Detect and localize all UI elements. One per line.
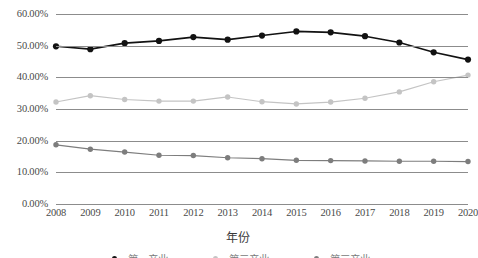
gridline bbox=[56, 14, 468, 15]
gridline bbox=[56, 77, 468, 78]
legend-label: 第三产业 bbox=[330, 251, 370, 258]
gridline bbox=[56, 46, 468, 47]
y-axis-tick-label: 30.00% bbox=[17, 104, 48, 115]
data-point bbox=[362, 33, 368, 39]
data-point bbox=[156, 38, 162, 44]
data-point bbox=[122, 97, 127, 102]
x-axis-title: 年份 bbox=[0, 228, 476, 246]
data-point bbox=[88, 147, 93, 152]
data-point bbox=[328, 29, 334, 35]
chart-legend: 第一产业第二产业第三产业 bbox=[0, 251, 476, 258]
x-axis-tick-label: 2016 bbox=[321, 207, 341, 219]
y-axis-tick-label: 10.00% bbox=[17, 167, 48, 178]
data-point bbox=[431, 159, 436, 164]
data-point bbox=[328, 158, 333, 163]
x-axis-tick-label: 2012 bbox=[183, 207, 203, 219]
data-point bbox=[397, 159, 402, 164]
data-point bbox=[293, 28, 299, 34]
data-point bbox=[53, 142, 58, 147]
y-axis-tick-label: 50.00% bbox=[17, 40, 48, 51]
legend-items: 第一产业第二产业第三产业 bbox=[0, 251, 476, 258]
x-axis-tick-label: 2010 bbox=[115, 207, 135, 219]
data-point bbox=[431, 79, 436, 84]
x-axis-tick-label: 2015 bbox=[286, 207, 306, 219]
y-axis-labels: 0.00%10.00%20.00%30.00%40.00%50.00%60.00… bbox=[0, 0, 56, 204]
y-axis-tick-label: 20.00% bbox=[17, 135, 48, 146]
data-point bbox=[225, 37, 231, 43]
y-axis-tick-label: 60.00% bbox=[17, 9, 48, 20]
data-point bbox=[88, 93, 93, 98]
legend-label: 第一产业 bbox=[128, 251, 168, 258]
data-point bbox=[328, 99, 333, 104]
gridline bbox=[56, 109, 468, 110]
data-point bbox=[396, 39, 402, 45]
legend-item[interactable]: 第三产业 bbox=[309, 251, 370, 258]
data-point bbox=[397, 89, 402, 94]
x-axis-tick-label: 2011 bbox=[149, 207, 169, 219]
x-axis-tick-label: 2019 bbox=[424, 207, 444, 219]
plot-area bbox=[56, 14, 468, 204]
data-point bbox=[294, 101, 299, 106]
data-point bbox=[431, 49, 437, 55]
x-axis-labels: 2008200920102011201220132014201520162017… bbox=[56, 207, 468, 223]
data-point bbox=[191, 98, 196, 103]
data-point bbox=[156, 153, 161, 158]
data-point bbox=[190, 34, 196, 40]
data-point bbox=[122, 149, 127, 154]
data-point bbox=[191, 153, 196, 158]
data-point bbox=[225, 94, 230, 99]
data-point bbox=[465, 159, 470, 164]
data-point bbox=[294, 158, 299, 163]
data-point bbox=[465, 57, 471, 63]
x-axis-tick-label: 2017 bbox=[355, 207, 375, 219]
x-axis-tick-label: 2013 bbox=[218, 207, 238, 219]
legend-item[interactable]: 第二产业 bbox=[208, 251, 269, 258]
x-axis-tick-label: 2020 bbox=[458, 207, 478, 219]
data-point bbox=[87, 46, 93, 52]
data-point bbox=[225, 155, 230, 160]
series-3 bbox=[53, 142, 470, 164]
y-axis-tick-label: 0.00% bbox=[22, 199, 48, 210]
data-point bbox=[362, 158, 367, 163]
data-point bbox=[259, 99, 264, 104]
x-axis-tick-label: 2009 bbox=[80, 207, 100, 219]
data-point bbox=[259, 32, 265, 38]
legend-item[interactable]: 第一产业 bbox=[107, 251, 168, 258]
x-axis-tick-label: 2014 bbox=[252, 207, 272, 219]
data-point bbox=[259, 156, 264, 161]
x-axis-tick-label: 2018 bbox=[389, 207, 409, 219]
data-point bbox=[156, 98, 161, 103]
x-axis-tick-label: 2008 bbox=[46, 207, 66, 219]
gridline bbox=[56, 141, 468, 142]
data-point bbox=[362, 96, 367, 101]
gridline bbox=[56, 204, 468, 205]
data-point bbox=[53, 99, 58, 104]
gridline bbox=[56, 172, 468, 173]
legend-label: 第二产业 bbox=[229, 251, 269, 258]
y-axis-tick-label: 40.00% bbox=[17, 72, 48, 83]
